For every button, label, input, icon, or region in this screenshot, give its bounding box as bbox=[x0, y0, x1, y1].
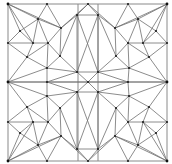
mesh-node bbox=[87, 3, 89, 5]
mesh-node bbox=[46, 95, 48, 97]
mesh-node bbox=[46, 3, 48, 5]
mesh-node bbox=[46, 81, 48, 83]
mesh-node bbox=[87, 81, 89, 83]
mesh-node bbox=[166, 160, 169, 163]
mesh-node bbox=[127, 160, 129, 162]
mesh-node bbox=[127, 3, 129, 5]
mesh-node bbox=[76, 14, 78, 16]
mesh-node bbox=[128, 67, 130, 69]
mesh-node bbox=[127, 81, 129, 83]
mesh-node bbox=[115, 55, 117, 57]
mesh-node bbox=[37, 144, 39, 146]
mesh-node bbox=[26, 56, 28, 58]
mesh-node bbox=[46, 67, 48, 69]
mesh-node bbox=[155, 132, 157, 134]
mesh-node bbox=[59, 55, 61, 57]
mesh-node bbox=[46, 160, 48, 162]
mesh-node bbox=[166, 81, 169, 84]
triangulated-mesh-diagram bbox=[0, 0, 172, 164]
mesh-node bbox=[47, 42, 49, 44]
mesh-node bbox=[97, 148, 99, 150]
mesh-node bbox=[60, 135, 62, 137]
mesh-node bbox=[60, 27, 62, 29]
mesh-node bbox=[7, 42, 9, 44]
mesh-node bbox=[76, 91, 78, 93]
mesh-node bbox=[128, 95, 130, 97]
mesh-node bbox=[114, 27, 116, 29]
mesh-node bbox=[19, 30, 21, 32]
mesh-node bbox=[87, 160, 89, 162]
mesh-node bbox=[47, 121, 49, 123]
mesh-node bbox=[166, 42, 168, 44]
mesh-node bbox=[7, 81, 10, 84]
mesh-node bbox=[137, 18, 139, 20]
mesh-node bbox=[142, 42, 144, 44]
mesh-node bbox=[97, 91, 99, 93]
mesh-node bbox=[76, 148, 78, 150]
mesh-node bbox=[127, 42, 129, 44]
mesh-node bbox=[97, 14, 99, 16]
mesh-node bbox=[32, 121, 34, 123]
mesh-node bbox=[127, 121, 129, 123]
mesh-node bbox=[7, 160, 10, 163]
mesh-node bbox=[155, 30, 157, 32]
mesh-node bbox=[142, 121, 144, 123]
mesh-node bbox=[32, 42, 34, 44]
mesh-node bbox=[26, 106, 28, 108]
mesh-node bbox=[137, 144, 139, 146]
mesh-node bbox=[114, 135, 116, 137]
mesh-node bbox=[166, 3, 169, 6]
mesh-node bbox=[166, 121, 168, 123]
mesh-node bbox=[148, 106, 150, 108]
mesh-node bbox=[97, 71, 99, 73]
mesh-node bbox=[7, 3, 10, 6]
mesh-node bbox=[115, 107, 117, 109]
mesh-node bbox=[59, 107, 61, 109]
mesh-node bbox=[37, 18, 39, 20]
mesh-node bbox=[76, 71, 78, 73]
mesh-node bbox=[19, 132, 21, 134]
mesh-node bbox=[7, 121, 9, 123]
mesh-node bbox=[148, 56, 150, 58]
